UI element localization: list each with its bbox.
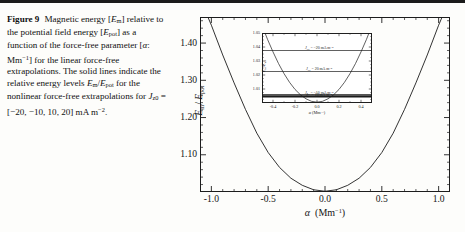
x-tick-label: 1.0	[433, 193, 445, 204]
y-tick-label: 1.10	[180, 148, 197, 159]
inset-y-tick-label: 1.05	[253, 30, 260, 35]
figure-number: Figure 9	[7, 14, 39, 24]
inset-x-tick-label: -0.2	[292, 104, 298, 109]
inset-x-tick-label: 0.0	[314, 104, 319, 109]
x-tick-label: -0.5	[261, 193, 276, 204]
inset-y-tick-label: 1.02	[253, 72, 260, 77]
inset-level-label: Jz0 = 10 mA m−2	[306, 92, 332, 98]
y-axis-title: Em/ Epot	[193, 56, 204, 146]
inset-x-tick-label: 0.4	[358, 104, 363, 109]
y-tick-label: 1.40	[180, 37, 197, 48]
inset-y-axis-title: Em/Epot	[261, 43, 267, 89]
inset-y-tick-label: 1.04	[253, 44, 260, 49]
symbol-epot-sub: pot	[109, 30, 117, 37]
x-axis-title: α (Mm−1)	[305, 207, 345, 218]
x-tick-label: -1.0	[204, 193, 219, 204]
inset-plot: 1.011.021.031.041.05 -0.4-0.20.00.20.4 α…	[262, 33, 372, 103]
inset-y-tick-label: 1.03	[253, 58, 260, 63]
x-tick-label: 0.5	[376, 193, 388, 204]
x-tick-label: 0.0	[319, 193, 331, 204]
figure-page: Figure 9Magnetic energy [Em] relative to…	[0, 0, 465, 232]
main-plot: 1.101.201.301.40 -1.0-0.50.00.51.0 α (Mm…	[200, 17, 450, 192]
figure-caption: Figure 9Magnetic energy [Em] relative to…	[7, 14, 167, 119]
inset-x-tick-label: 0.2	[336, 104, 341, 109]
page-top-rule	[0, 0, 465, 3]
inset-level-label: Jz0 = 20 mA m−2	[306, 66, 332, 72]
ratio-denominator-sub: pot	[106, 81, 114, 88]
caption-jz-exp: −2	[98, 106, 105, 113]
ratio-numerator-sub: m	[92, 81, 97, 88]
inset-y-tick-label: 1.01	[253, 86, 260, 91]
caption-period: .	[105, 107, 107, 117]
inset-x-axis-title: α (Mm−1)	[309, 110, 325, 115]
inset-x-tick-label: -0.4	[270, 104, 276, 109]
caption-exp-m1: −1	[22, 54, 29, 61]
caption-text-1: Magnetic energy [	[44, 14, 111, 24]
inset-level-label: Jz0 = −20 mA m−2	[305, 45, 333, 51]
